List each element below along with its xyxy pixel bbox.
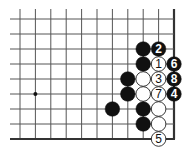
- white-stone: 3: [151, 72, 166, 87]
- move-number-label: 7: [155, 87, 162, 101]
- white-stone: [136, 72, 151, 87]
- star-point: [33, 92, 37, 96]
- black-stone: [136, 117, 151, 132]
- move-number-label: 1: [155, 57, 162, 71]
- black-stone: 4: [167, 87, 182, 102]
- black-stone: [121, 87, 136, 102]
- move-number-label: 2: [155, 42, 162, 56]
- white-stone: 5: [151, 132, 166, 147]
- black-stone: [136, 102, 151, 117]
- white-stone: [151, 117, 166, 132]
- move-number-label: 3: [155, 72, 162, 86]
- white-stone: [136, 87, 151, 102]
- star-points: [33, 92, 37, 96]
- black-stone: [136, 42, 151, 57]
- move-number-label: 5: [155, 132, 162, 146]
- black-stone: 6: [167, 57, 182, 72]
- go-board: 21638745: [0, 0, 190, 156]
- move-number-label: 6: [171, 57, 178, 71]
- move-number-label: 8: [171, 72, 178, 86]
- move-number-label: 4: [171, 87, 178, 101]
- black-stone: [105, 102, 120, 117]
- white-stone: 7: [151, 87, 166, 102]
- white-stone: [151, 102, 166, 117]
- black-stone: [121, 72, 136, 87]
- black-stone: 8: [167, 72, 182, 87]
- black-stone: [136, 57, 151, 72]
- white-stone: 1: [151, 57, 166, 72]
- black-stone: 2: [151, 42, 166, 57]
- grid-lines: [10, 9, 175, 139]
